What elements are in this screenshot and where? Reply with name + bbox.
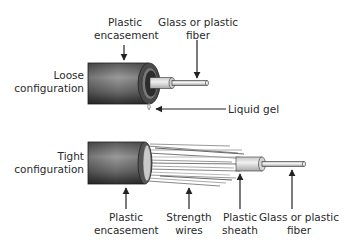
tight-fiber-line2: fiber — [258, 224, 340, 237]
strength-wires — [148, 144, 244, 186]
loose-encasement-label: Plastic encasement — [94, 16, 156, 41]
loose-encasement-line2: encasement — [94, 29, 156, 42]
loose-label-line1: Loose — [0, 69, 84, 82]
tight-encasement-line1: Plastic — [94, 211, 158, 224]
tight-label-line1: Tight — [0, 150, 84, 163]
loose-fiber-line1: Glass or plastic — [158, 16, 238, 29]
strength-wires-line1: Strength — [164, 211, 214, 224]
loose-fiber-line2: fiber — [158, 29, 238, 42]
tight-fiber-line1: Glass or plastic — [258, 211, 340, 224]
tight-encasement-label: Plastic encasement — [94, 211, 158, 236]
tight-encasement-line2: encasement — [94, 224, 158, 237]
tight-label-line2: configuration — [0, 163, 84, 176]
fiber-optic-diagram: Loose configuration Plastic encasement G… — [0, 0, 354, 249]
loose-cable — [88, 63, 209, 110]
loose-fiber-label: Glass or plastic fiber — [158, 16, 238, 41]
liquid-gel-label: Liquid gel — [228, 103, 279, 116]
plastic-sheath-line1: Plastic — [219, 211, 261, 224]
tight-cable — [88, 142, 306, 186]
strength-wires-line2: wires — [164, 224, 214, 237]
loose-encasement-line1: Plastic — [94, 16, 156, 29]
plastic-sheath-line2: sheath — [219, 224, 261, 237]
loose-configuration-label: Loose configuration — [0, 69, 84, 94]
strength-wires-label: Strength wires — [164, 211, 214, 236]
plastic-sheath-label: Plastic sheath — [219, 211, 261, 236]
tight-configuration-label: Tight configuration — [0, 150, 84, 175]
loose-label-line2: configuration — [0, 82, 84, 95]
tight-fiber-label: Glass or plastic fiber — [258, 211, 340, 236]
